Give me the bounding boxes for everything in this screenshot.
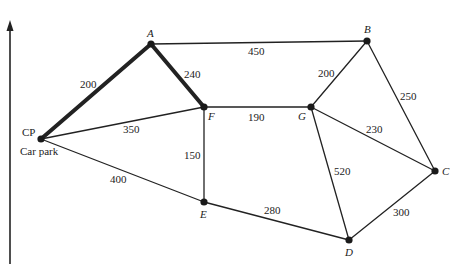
node-dot-icon	[200, 103, 207, 110]
edge-f-e: 150	[184, 107, 204, 202]
edge-weight-label: 350	[123, 123, 140, 135]
edge-weight-label: 400	[110, 173, 127, 185]
edge-weight-label: 450	[248, 45, 265, 57]
edge-line	[41, 139, 204, 202]
node-label: E	[199, 208, 207, 220]
edge-g-d: 520	[311, 107, 351, 240]
node-f: F	[200, 103, 215, 122]
edge-b-c: 250	[367, 41, 435, 171]
node-sublabel: Car park	[20, 145, 59, 157]
node-dot-icon	[307, 103, 314, 110]
edge-weight-label: 300	[393, 206, 410, 218]
edge-weight-label: 150	[184, 149, 201, 161]
edge-cp-e: 400	[41, 139, 204, 202]
edge-weight-label: 240	[184, 68, 201, 80]
edge-g-c: 230	[311, 107, 435, 171]
node-dot-icon	[200, 198, 207, 205]
edge-g-b: 200	[311, 41, 367, 107]
arrow-up-icon	[7, 20, 14, 31]
node-dot-icon	[345, 236, 352, 243]
edge-line	[367, 41, 435, 171]
node-label: G	[298, 110, 306, 122]
edge-d-c: 300	[349, 171, 435, 240]
edge-weight-label: 280	[264, 204, 281, 216]
node-dot-icon	[363, 37, 370, 44]
node-label: D	[344, 246, 353, 258]
edge-f-g: 190	[204, 107, 311, 123]
node-dot-icon	[431, 167, 438, 174]
node-label: C	[442, 165, 450, 177]
node-label: A	[146, 27, 154, 39]
edge-line	[349, 171, 435, 240]
edge-weight-label: 190	[248, 111, 265, 123]
node-b: B	[363, 23, 371, 45]
edge-weight-label: 250	[400, 90, 417, 102]
vertical-arrow-axis	[7, 20, 14, 264]
node-c: C	[431, 165, 450, 177]
edge-weight-label: 520	[334, 165, 351, 177]
edge-weight-label: 200	[318, 67, 335, 79]
edge-weight-label: 200	[80, 78, 97, 90]
node-dot-icon	[37, 135, 44, 142]
node-label: F	[207, 110, 215, 122]
node-label: B	[364, 23, 371, 35]
edge-line	[311, 107, 435, 171]
edge-line	[151, 41, 367, 44]
node-a: A	[146, 27, 155, 48]
edge-weight-label: 230	[366, 123, 383, 135]
node-label: CP	[22, 126, 35, 138]
node-dot-icon	[147, 40, 154, 47]
edge-cp-f: 350	[41, 107, 204, 139]
edge-e-d: 280	[204, 202, 349, 240]
node-e: E	[199, 198, 208, 220]
edge-a-b: 450	[151, 41, 367, 57]
network-diagram: 200240450350400190150200250230520280300 …	[0, 0, 460, 264]
edge-a-f: 240	[151, 44, 204, 107]
